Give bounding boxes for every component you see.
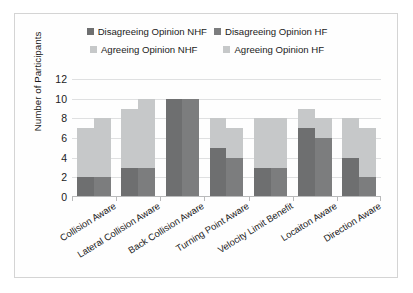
plot-area: 024681012 [72, 79, 381, 197]
bar-segment[interactable] [121, 168, 138, 198]
legend-row-2: Agreeing Opinion NHF Agreeing Opinion HF [15, 40, 399, 58]
bar-segment[interactable] [121, 109, 138, 168]
bar-segment[interactable] [298, 128, 315, 197]
bar-group [116, 79, 160, 197]
y-tick-label: 4 [61, 152, 67, 164]
bar-segment[interactable] [315, 118, 332, 138]
x-tick-label: Lateral Collision Aware [76, 200, 163, 260]
bar-segment[interactable] [94, 177, 111, 197]
chart-figure: Disagreeing Opinion NHF Disagreeing Opin… [14, 13, 398, 278]
stacked-bar[interactable] [166, 99, 183, 197]
bar-segment[interactable] [138, 168, 155, 198]
legend-item-agreeing-nhf[interactable]: Agreeing Opinion NHF [90, 44, 198, 55]
legend-label-disagreeing-nhf: Disagreeing Opinion NHF [98, 26, 207, 37]
x-tick-label: Back Collision Aware [126, 200, 206, 256]
bar-segment[interactable] [226, 158, 243, 197]
stacked-bar[interactable] [94, 118, 111, 197]
legend-swatch-disagreeing-hf [214, 28, 221, 35]
x-axis-labels: Collision AwareLateral Collision AwareBa… [72, 200, 381, 278]
stacked-bar[interactable] [210, 118, 227, 197]
bar-segment[interactable] [271, 168, 288, 198]
legend-label-disagreeing-hf: Disagreeing Opinion HF [225, 26, 327, 37]
x-axis-line [72, 196, 381, 197]
stacked-bar[interactable] [342, 118, 359, 197]
bar-segment[interactable] [226, 128, 243, 158]
bar-segment[interactable] [298, 109, 315, 129]
y-tick-label: 12 [55, 73, 67, 85]
bar-segment[interactable] [342, 158, 359, 197]
bar-segment[interactable] [210, 148, 227, 197]
legend-swatch-agreeing-hf [223, 46, 230, 53]
bar-group [72, 79, 116, 197]
stacked-bar[interactable] [315, 118, 332, 197]
legend-item-disagreeing-hf[interactable]: Disagreeing Opinion HF [214, 26, 327, 37]
bar-group [293, 79, 337, 197]
bar-group [204, 79, 248, 197]
bar-segment[interactable] [342, 118, 359, 157]
legend-label-agreeing-hf: Agreeing Opinion HF [234, 44, 324, 55]
stacked-bar[interactable] [271, 118, 288, 197]
bar-segment[interactable] [254, 168, 271, 198]
bar-segment[interactable] [166, 99, 183, 197]
legend-label-agreeing-nhf: Agreeing Opinion NHF [101, 44, 198, 55]
bar-segment[interactable] [182, 99, 199, 197]
bar-segment[interactable] [315, 138, 332, 197]
bar-group [160, 79, 204, 197]
stacked-bar[interactable] [77, 128, 94, 197]
chart-legend: Disagreeing Opinion NHF Disagreeing Opin… [15, 22, 399, 58]
bar-segment[interactable] [271, 118, 288, 167]
legend-swatch-disagreeing-nhf [87, 28, 94, 35]
bar-segment[interactable] [77, 128, 94, 177]
bar-segment[interactable] [94, 118, 111, 177]
bar-segment[interactable] [359, 128, 376, 177]
stacked-bar[interactable] [359, 128, 376, 197]
bar-group [249, 79, 293, 197]
stacked-bar[interactable] [298, 109, 315, 197]
stacked-bar[interactable] [138, 99, 155, 197]
legend-item-disagreeing-nhf[interactable]: Disagreeing Opinion NHF [87, 26, 207, 37]
legend-item-agreeing-hf[interactable]: Agreeing Opinion HF [223, 44, 324, 55]
bar-segment[interactable] [138, 99, 155, 168]
legend-row-1: Disagreeing Opinion NHF Disagreeing Opin… [15, 22, 399, 40]
stacked-bar[interactable] [254, 118, 271, 197]
x-tick-label: Velocity Limit Benefit [215, 200, 294, 255]
legend-swatch-agreeing-nhf [90, 46, 97, 53]
y-tick-label: 0 [61, 191, 67, 203]
stacked-bar[interactable] [121, 109, 138, 198]
bar-segment[interactable] [254, 118, 271, 167]
bar-segment[interactable] [359, 177, 376, 197]
y-tick-label: 6 [61, 132, 67, 144]
y-tick-label: 2 [61, 171, 67, 183]
bar-segment[interactable] [210, 118, 227, 148]
y-axis-title: Number of Participants [32, 7, 43, 157]
stacked-bar[interactable] [226, 128, 243, 197]
stacked-bar[interactable] [182, 99, 199, 197]
bar-segment[interactable] [77, 177, 94, 197]
bar-groups [72, 79, 381, 197]
y-tick-label: 8 [61, 112, 67, 124]
y-tick-label: 10 [55, 93, 67, 105]
bar-group [337, 79, 381, 197]
